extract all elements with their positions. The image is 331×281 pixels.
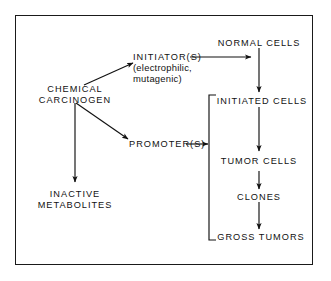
node-initiators: INITIATOR(S) xyxy=(133,52,202,63)
node-promoters: PROMOTER(S) xyxy=(129,139,205,150)
promotion-stage-bracket xyxy=(209,95,216,240)
arrow-carcinogen-to-initiators xyxy=(84,63,133,85)
node-chemical-carcinogen: CHEMICAL CARCINOGEN xyxy=(39,84,111,105)
node-clones: CLONES xyxy=(237,192,281,203)
node-gross-tumors: GROSS TUMORS xyxy=(217,232,304,243)
node-tumor-cells: TUMOR CELLS xyxy=(221,156,297,167)
node-inactive-metabolites: INACTIVE METABOLITES xyxy=(38,189,113,210)
node-normal-cells: NORMAL CELLS xyxy=(218,38,301,49)
node-initiators-detail: (electrophilic, mutagenic) xyxy=(133,63,192,84)
node-initiated-cells: INITIATED CELLS xyxy=(217,96,307,107)
diagram-page: CHEMICAL CARCINOGEN INACTIVE METABOLITES… xyxy=(0,0,331,281)
arrow-carcinogen-to-promoters xyxy=(76,103,128,139)
